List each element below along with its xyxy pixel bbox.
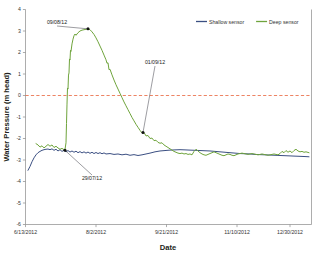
y-tick-label: -4 (16, 178, 21, 184)
y-tick-label: 3 (18, 28, 21, 34)
x-tick-label: 12/30/2012 (277, 229, 303, 235)
y-tick-label: 2 (18, 49, 21, 55)
annotation-marker-dot (142, 131, 145, 134)
water-pressure-line-chart: 43210-1-2-3-4-5-6 6/13/20128/2/20129/21/… (0, 0, 327, 257)
chart-background (0, 0, 327, 257)
y-axis-title: Water Pressure (m head) (2, 72, 11, 162)
annotation-marker-dot (87, 27, 90, 30)
y-tick-label: -1 (16, 114, 21, 120)
y-tick-label: -2 (16, 135, 21, 141)
x-tick-label: 6/13/2012 (14, 229, 37, 235)
y-tick-label: -3 (16, 157, 21, 163)
legend-label: Shallow sensor (209, 19, 244, 25)
annotation-label: 01/09/12 (145, 59, 165, 65)
y-tick-label: -5 (16, 200, 21, 206)
x-tick-label: 8/2/2012 (86, 229, 106, 235)
y-tick-label: -6 (16, 221, 21, 227)
annotation-label: 29/07/12 (82, 175, 102, 181)
x-tick-label: 11/10/2012 (224, 229, 250, 235)
y-tick-label: 1 (18, 71, 21, 77)
y-tick-label: 0 (18, 92, 21, 98)
y-tick-label: 4 (18, 6, 21, 12)
legend-label: Deep sensor (269, 19, 299, 25)
chart-container: 43210-1-2-3-4-5-6 6/13/20128/2/20129/21/… (0, 0, 327, 257)
annotation-marker-dot (64, 149, 67, 152)
x-tick-label: 9/21/2012 (155, 229, 178, 235)
annotation-label: 09/08/12 (47, 19, 67, 25)
x-axis-title: Date (160, 243, 176, 252)
